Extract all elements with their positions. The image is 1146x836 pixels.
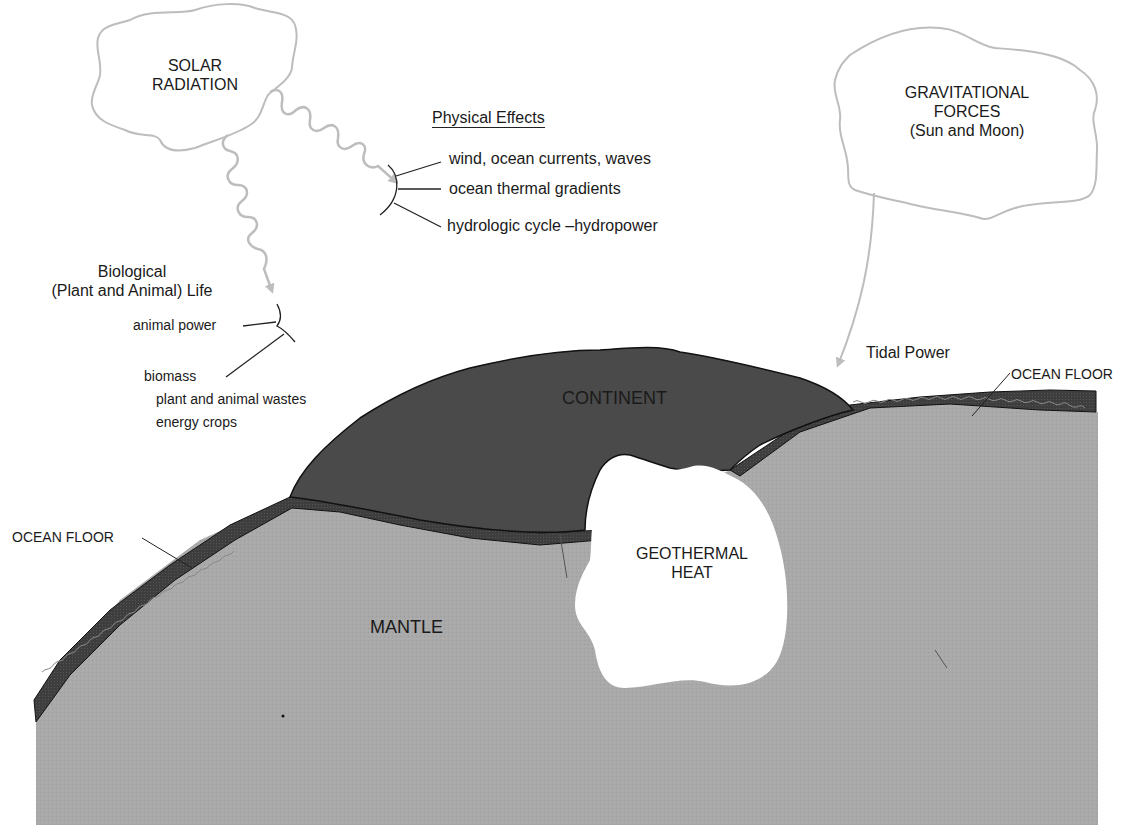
biomass-label: biomass: [144, 368, 196, 385]
biological-heading-line2: (Plant and Animal) Life: [52, 281, 213, 300]
biomass-sub-crops: energy crops: [156, 414, 237, 431]
solar-to-biological-arrow: [223, 135, 272, 291]
ocean-floor-right-label: OCEAN FLOOR: [1011, 366, 1113, 383]
solar-label-line2: RADIATION: [152, 75, 238, 94]
mantle-speck: [282, 715, 285, 718]
physical-effects-heading: Physical Effects: [432, 108, 545, 127]
tidal-power-label: Tidal Power: [866, 343, 950, 362]
physical-effects-heading-text: Physical Effects: [432, 109, 545, 128]
physical-effects-brace: [380, 165, 397, 215]
gravitational-label-line2: FORCES: [905, 102, 1029, 121]
geothermal-heat-label: GEOTHERMAL HEAT: [636, 544, 748, 582]
geothermal-label-line1: GEOTHERMAL: [636, 544, 748, 563]
solar-radiation-label: SOLAR RADIATION: [152, 56, 238, 94]
ocean-floor-left-label: OCEAN FLOOR: [12, 529, 114, 546]
gravitational-label-line1: GRAVITATIONAL: [905, 83, 1029, 102]
physical-effect-item: ocean thermal gradients: [449, 179, 621, 198]
branch-biomass: [226, 334, 284, 377]
solar-to-physical-arrow: [270, 90, 396, 182]
physical-effect-item: hydrologic cycle –hydropower: [447, 216, 658, 235]
geothermal-label-line2: HEAT: [636, 563, 748, 582]
gravity-to-tidal-arrow: [838, 193, 874, 365]
branch-hydro: [394, 203, 441, 227]
biomass-sub-wastes: plant and animal wastes: [156, 391, 306, 408]
gravitational-forces-label: GRAVITATIONAL FORCES (Sun and Moon): [905, 83, 1029, 141]
mantle-label: MANTLE: [370, 617, 443, 639]
branch-wind: [396, 162, 441, 176]
gravitational-label-line3: (Sun and Moon): [905, 121, 1029, 140]
biological-heading-line1: Biological: [52, 262, 213, 281]
animal-power-label: animal power: [133, 317, 216, 334]
biological-brace: [277, 304, 295, 342]
branch-animal-power: [243, 322, 276, 326]
physical-effect-item: wind, ocean currents, waves: [449, 149, 651, 168]
biological-heading: Biological (Plant and Animal) Life: [52, 262, 213, 300]
solar-label-line1: SOLAR: [152, 56, 238, 75]
continent-label: CONTINENT: [562, 388, 667, 410]
